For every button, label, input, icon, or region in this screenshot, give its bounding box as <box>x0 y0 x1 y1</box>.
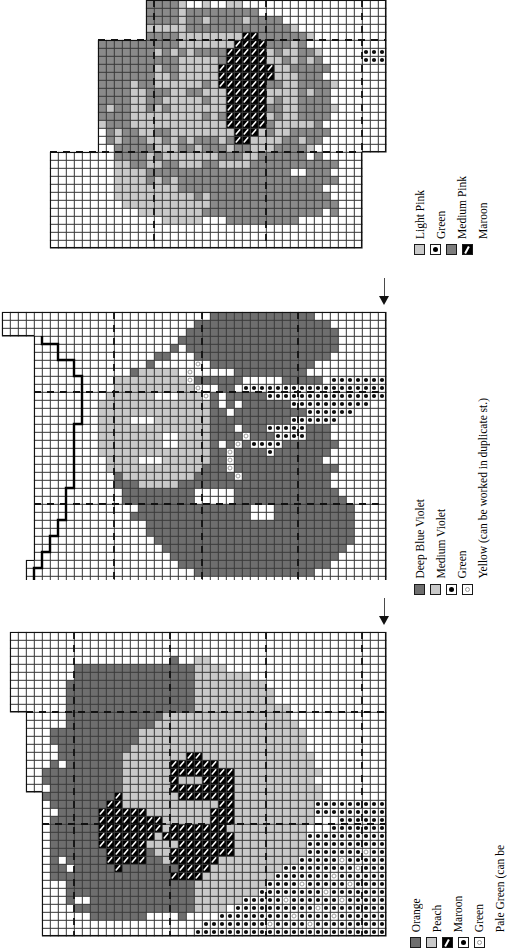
legend-label: Maroon <box>477 176 493 239</box>
legend-top-swatches <box>414 244 473 255</box>
legend-label: Deep Blue Violet <box>414 398 430 579</box>
swatch-maroon-icon <box>462 244 473 255</box>
chart-bottom <box>0 630 410 940</box>
legend-middle-swatches <box>414 584 473 595</box>
swatch-yellow-icon <box>462 584 473 595</box>
swatch-green-icon <box>430 244 441 255</box>
legend-middle-labels: Deep Blue Violet Medium Violet Green Yel… <box>414 398 505 579</box>
legend-label: Orange <box>410 845 426 932</box>
legend-label: Yellow (can be worked in duplicate st.) <box>477 398 505 579</box>
swatch-light-pink-icon <box>414 244 425 255</box>
legend-bottom-labels: Orange Peach Maroon Green Pale Green (ca… <box>410 845 510 932</box>
chart-top <box>0 0 410 250</box>
legend-label: Green <box>435 176 451 239</box>
legend-label: Medium Violet <box>435 398 451 579</box>
swatch-deep-blue-violet-icon <box>414 584 425 595</box>
legend-label: Light Pink <box>414 176 430 239</box>
swatch-green-icon <box>458 937 469 948</box>
legend-bottom-swatches <box>410 937 485 948</box>
swatch-medium-violet-icon <box>430 584 441 595</box>
swatch-maroon-icon <box>442 937 453 948</box>
legend-label: Maroon <box>452 845 468 932</box>
legend-label: Pale Green (can be <box>494 845 510 932</box>
swatch-medium-pink-icon <box>446 244 457 255</box>
legend-top-labels: Light Pink Green Medium Pink Maroon <box>414 176 493 239</box>
legend-label: Green <box>473 845 489 932</box>
chart-middle-grid <box>0 310 410 580</box>
swatch-peach-icon <box>426 937 437 948</box>
swatch-orange-icon <box>410 937 421 948</box>
chart-middle <box>0 310 410 580</box>
swatch-pale-green-icon <box>474 937 485 948</box>
swatch-green-icon <box>446 584 457 595</box>
legend-label: Green <box>456 398 472 579</box>
chart-top-grid <box>0 0 410 250</box>
legend-label: Medium Pink <box>456 176 472 239</box>
chart-bottom-grid <box>0 630 410 940</box>
legend-label: Peach <box>431 845 447 932</box>
